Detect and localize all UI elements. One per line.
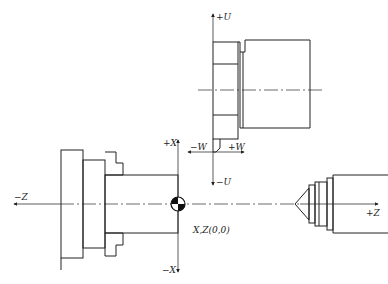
origin-symbol: [171, 197, 185, 211]
label-minus-u: −U: [216, 177, 232, 187]
label-plus-u: +U: [216, 12, 232, 22]
label-plus-x: +X: [163, 138, 178, 148]
label-origin: X,Z(0,0): [192, 225, 230, 235]
label-plus-z: +Z: [366, 208, 381, 218]
label-minus-x: −X: [162, 265, 177, 275]
label-plus-w: +W: [228, 142, 246, 152]
lathe-coordinate-diagram: +U −U +W −W +X −X +Z −Z X,Z(0,0): [0, 0, 388, 284]
tool-post: [198, 40, 325, 152]
chuck: [61, 150, 123, 270]
label-minus-w: −W: [190, 142, 208, 152]
label-minus-z: −Z: [14, 192, 29, 202]
